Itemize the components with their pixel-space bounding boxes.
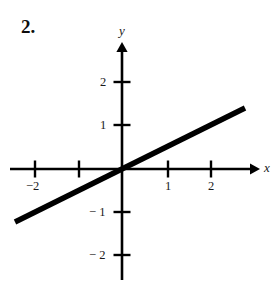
x-axis-label: x xyxy=(264,161,270,174)
y-tick-label-neg2: − 2 xyxy=(89,249,105,262)
x-axis-arrowhead-icon xyxy=(250,163,260,174)
coordinate-plane-svg xyxy=(0,0,278,287)
y-tick-label-pos2: 2 xyxy=(100,76,106,89)
x-tick-label-pos1: 1 xyxy=(165,180,171,193)
y-axis-label: y xyxy=(119,24,125,37)
y-axis xyxy=(116,42,127,280)
y-axis-arrowhead-icon xyxy=(116,42,127,52)
x-tick-label-neg2: −2 xyxy=(26,180,39,193)
y-tick-label-pos1: 1 xyxy=(100,119,106,132)
graph-figure: 2. y x − xyxy=(0,0,278,287)
y-tick-label-neg1: − 1 xyxy=(89,206,105,219)
x-tick-label-pos2: 2 xyxy=(208,180,214,193)
